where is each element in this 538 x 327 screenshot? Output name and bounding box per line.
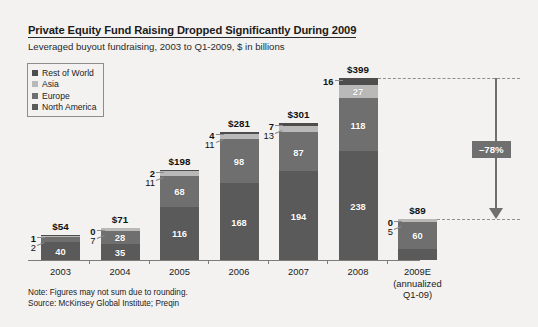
legend-item-europe: Europe [32, 90, 96, 102]
bar-column: 60 [398, 219, 437, 260]
callout-leader-line [394, 221, 402, 222]
bar-segment: 116 [160, 207, 199, 260]
bar-segment: 60 [398, 222, 437, 249]
legend-label: Rest of World [42, 68, 94, 78]
bar-column: 98168 [220, 132, 259, 260]
bar-column: 27118238 [339, 78, 378, 260]
bar-segment: 27 [339, 85, 378, 97]
chart-legend: Rest of World Asia Europe North America [27, 63, 104, 117]
legend-label: Asia [42, 79, 59, 89]
legend-swatch-icon [32, 70, 38, 76]
bar-segment-value: 35 [101, 246, 140, 257]
bar-segment-value: 27 [339, 86, 378, 97]
bar-segment-value: 116 [160, 228, 199, 239]
bar-segment: 168 [220, 183, 259, 260]
bar-segment-value: 60 [398, 230, 437, 241]
x-axis-category-sublabel: (annualized [373, 278, 463, 289]
segment-callout-asia: 5 [376, 226, 393, 237]
callout-leader-line [335, 80, 343, 81]
bar-segment-value: 87 [279, 146, 318, 157]
x-axis-tick [327, 260, 328, 264]
bar-segment: 98 [220, 139, 259, 184]
bar-segment-value: 98 [220, 155, 259, 166]
bar-segment-value: 40 [41, 246, 80, 257]
footer-notes: Note: Figures may not sum due to roundin… [28, 288, 188, 309]
x-axis-category-label: 2009E [383, 266, 453, 277]
footer-source: Source: McKinsey Global Institute; Preqi… [28, 299, 188, 310]
page-title: Private Equity Fund Raising Dropped Sign… [28, 24, 356, 38]
page-subtitle: Leveraged buyout fundraising, 2003 to Q1… [28, 41, 285, 52]
bar-column: 40 [41, 235, 80, 260]
legend-label: Europe [42, 91, 70, 101]
callout-leader-line [37, 237, 45, 238]
callout-leader-line [97, 230, 105, 231]
bar-segment-value: 168 [220, 216, 259, 227]
bar-segment-value: 238 [339, 200, 378, 211]
segment-callout-asia: 2 [19, 242, 36, 253]
x-axis-tick [208, 260, 209, 264]
x-axis-category-sublabel: Q1-09) [373, 289, 463, 300]
bar-segment: 40 [41, 242, 80, 260]
x-axis-tick [387, 260, 388, 264]
legend-swatch-icon [32, 93, 38, 99]
bar-segment-value: 194 [279, 210, 318, 221]
bar-column: 68116 [160, 170, 199, 260]
bar-column: 2835 [101, 228, 140, 260]
segment-callout-asia: 11 [198, 139, 215, 150]
segment-callout-asia: 11 [138, 177, 155, 188]
bar-total-label: $89 [386, 205, 449, 216]
annotation-dashed-line-top [378, 78, 521, 79]
x-axis-tick [89, 260, 90, 264]
bar-segment: 194 [279, 171, 318, 259]
callout-leader-line [275, 125, 283, 126]
segment-callout-asia: 13 [257, 130, 274, 141]
bar-total-label: $71 [89, 214, 152, 225]
annotation-dashed-line-bottom [437, 219, 520, 220]
slide-canvas: Private Equity Fund Raising Dropped Sign… [0, 0, 538, 327]
bar-total-label: $399 [327, 64, 390, 75]
legend-item-rest-of-world: Rest of World [32, 67, 96, 79]
bar-segment: 238 [339, 151, 378, 260]
bar-segment: 87 [279, 132, 318, 172]
legend-swatch-icon [32, 81, 38, 87]
legend-item-asia: Asia [32, 79, 96, 91]
bar-segment-value: 28 [101, 232, 140, 243]
x-axis-tick [149, 260, 150, 264]
x-axis-tick [268, 260, 269, 264]
callout-leader-line [216, 134, 224, 135]
bar-segment: 118 [339, 98, 378, 152]
x-axis-line [28, 260, 420, 261]
legend-swatch-icon [32, 104, 38, 110]
annotation-change-badge: –78% [472, 141, 511, 158]
bar-total-label: $198 [148, 156, 211, 167]
annotation-arrow-head-icon [489, 208, 503, 219]
bar-segment [339, 78, 378, 85]
bar-segment-value: 118 [339, 119, 378, 130]
bar-column: 87194 [279, 123, 318, 260]
segment-callout-rest-of-world: 16 [317, 76, 334, 87]
callout-leader-line [156, 172, 164, 173]
footer-note: Note: Figures may not sum due to roundin… [28, 288, 188, 299]
legend-item-north-america: North America [32, 102, 96, 114]
segment-callout-asia: 7 [79, 235, 96, 246]
legend-label: North America [42, 102, 96, 112]
bar-segment: 68 [160, 176, 199, 207]
bar-segment: 35 [101, 244, 140, 260]
bar-segment-value: 68 [160, 186, 199, 197]
bar-segment [398, 249, 437, 260]
bar-total-label: $301 [267, 109, 330, 120]
bar-segment: 28 [101, 231, 140, 244]
